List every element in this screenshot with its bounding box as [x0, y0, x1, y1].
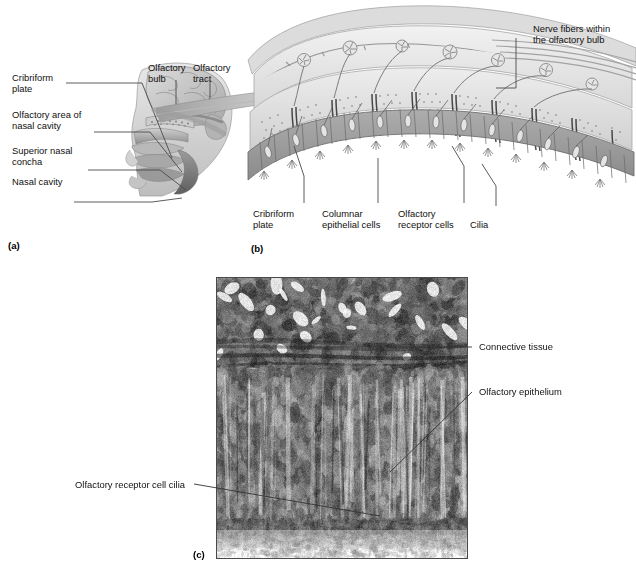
label-cribriform-plate-a: Cribriform plate	[12, 72, 53, 95]
label-olfactory-receptor-cells: Olfactory receptor cells	[398, 208, 454, 231]
figure-olfactory-structures: Cribriform plate Olfactory area of nasal…	[0, 0, 636, 575]
label-columnar-epithelial-cells: Columnar epithelial cells	[322, 208, 380, 231]
label-olfactory-bulb: Olfactory bulb	[148, 62, 186, 85]
label-olfactory-area-nasal-cavity: Olfactory area of nasal cavity	[12, 109, 81, 132]
panel-id-c: (c)	[193, 549, 205, 560]
label-nasal-cavity: Nasal cavity	[12, 176, 63, 187]
label-cilia: Cilia	[470, 219, 488, 230]
panel-id-b: (b)	[251, 243, 263, 254]
label-connective-tissue: Connective tissue	[479, 341, 553, 352]
label-olfactory-epithelium: Olfactory epithelium	[479, 386, 562, 397]
panel-c-micrograph	[216, 277, 468, 559]
label-olfactory-tract: Olfactory tract	[193, 62, 231, 85]
label-superior-nasal-concha: Superior nasal concha	[12, 145, 72, 168]
label-nerve-fibers-olfactory-bulb: Nerve fibers within the olfactory bulb	[533, 23, 610, 46]
panel-id-a: (a)	[8, 240, 20, 251]
label-cribriform-plate-b: Cribriform plate	[253, 208, 294, 231]
label-olfactory-receptor-cell-cilia: Olfactory receptor cell cilia	[75, 479, 185, 490]
